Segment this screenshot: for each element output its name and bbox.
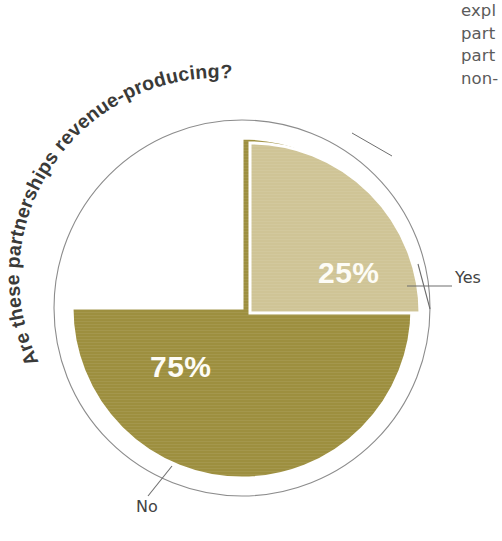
body-text-line-2: part (461, 23, 502, 46)
slice-label-yes: 25% (318, 256, 380, 289)
callout-label-no: No (136, 497, 158, 516)
body-text-line-4: non- (461, 68, 502, 91)
callout-label-yes: Yes (455, 268, 481, 287)
page-body-text-fragment: expl part part non- (461, 0, 502, 90)
title-leader-line (352, 133, 392, 156)
body-text-line-3: part (461, 45, 502, 68)
slice-label-no: 75% (150, 350, 212, 383)
pie-chart-figure: 25% 75% Are these partnerships revenue-p… (0, 0, 502, 541)
body-text-line-1: expl (461, 0, 502, 23)
pie-chart-svg: 25% 75% Are these partnerships revenue-p… (0, 0, 502, 541)
